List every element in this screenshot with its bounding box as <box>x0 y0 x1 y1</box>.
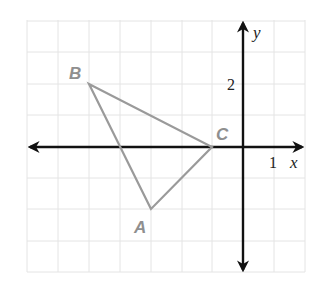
x-axis-label: x <box>289 153 298 172</box>
vertex-label-c: C <box>216 125 229 144</box>
y-axis-label: y <box>251 23 261 42</box>
vertex-label-b: B <box>69 64 81 83</box>
x-tick-label: 1 <box>269 154 277 171</box>
y-tick-label: 2 <box>227 76 235 93</box>
coordinate-plane: B C A 2 1 x y <box>0 0 325 285</box>
vertex-label-a: A <box>133 218 146 237</box>
